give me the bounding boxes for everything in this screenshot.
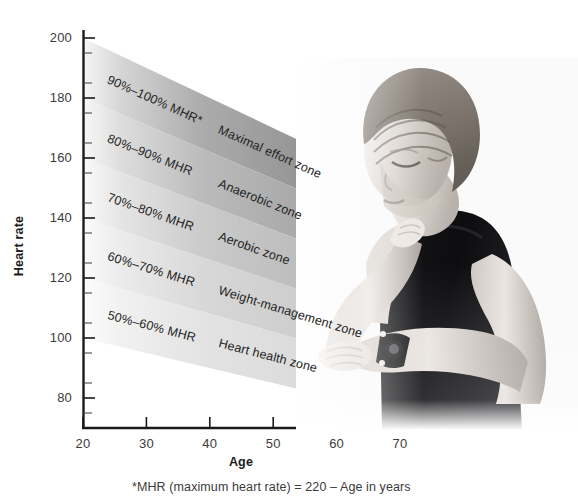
y-tick-label: 180 — [28, 90, 72, 105]
y-tick-label: 100 — [28, 330, 72, 345]
x-tick-label: 30 — [126, 436, 166, 451]
x-tick-label: 50 — [253, 436, 293, 451]
heart-rate-zones-figure: 20018016014012010080203040506070 Heart r… — [0, 0, 578, 504]
zone-bands-fade — [83, 20, 483, 429]
chart-svg — [0, 0, 578, 504]
x-axis-title: Age — [196, 455, 286, 469]
y-axis-title: Heart rate — [12, 196, 26, 296]
y-tick-label: 120 — [28, 270, 72, 285]
y-tick-label: 80 — [28, 390, 72, 405]
x-tick-label: 20 — [63, 436, 103, 451]
x-tick-label: 40 — [190, 436, 230, 451]
footnote: *MHR (maximum heart rate) = 220 – Age in… — [132, 480, 411, 494]
x-tick-label: 60 — [317, 436, 357, 451]
y-tick-label: 200 — [28, 30, 72, 45]
y-tick-label: 140 — [28, 210, 72, 225]
y-tick-label: 160 — [28, 150, 72, 165]
chart-plot-area — [0, 0, 578, 504]
x-tick-label: 70 — [380, 436, 420, 451]
